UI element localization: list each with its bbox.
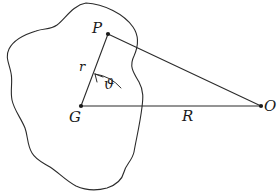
figure-container: P G O r R ϑ xyxy=(0,0,277,196)
label-angle-theta: ϑ xyxy=(104,77,114,91)
segment-p-to-o xyxy=(108,34,261,106)
label-distance-r: R xyxy=(182,109,193,124)
geometry-diagram xyxy=(0,0,277,196)
point-marker-p xyxy=(106,32,110,36)
point-marker-o xyxy=(259,104,263,108)
rigid-body-outline xyxy=(7,3,143,190)
label-vector-r: r xyxy=(79,60,85,73)
label-point-p: P xyxy=(92,21,102,36)
label-point-g: G xyxy=(69,110,81,125)
label-point-o: O xyxy=(264,99,276,114)
